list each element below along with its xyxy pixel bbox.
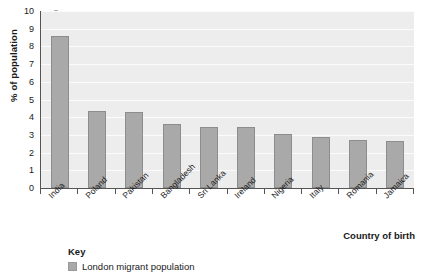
bar-slot — [339, 11, 376, 188]
legend-item: London migrant population — [68, 261, 195, 272]
chart-legend: Key London migrant population — [68, 246, 195, 272]
y-axis-tick-label: 8 — [18, 42, 34, 51]
bars-group — [41, 11, 414, 188]
y-axis-tick-label: 4 — [18, 113, 34, 122]
bar[interactable] — [51, 36, 69, 188]
y-axis-tick-label: 5 — [18, 95, 34, 104]
bar-slot — [116, 11, 153, 188]
bar-slot — [153, 11, 190, 188]
bar-slot — [302, 11, 339, 188]
legend-swatch-icon — [68, 262, 77, 271]
y-axis-tick-label: 1 — [18, 166, 34, 175]
bar-slot — [41, 11, 78, 188]
plot-area — [40, 11, 414, 189]
y-axis-tick-label: 7 — [18, 60, 34, 69]
y-axis-tick-label: 10 — [18, 7, 34, 16]
bar-slot — [78, 11, 115, 188]
bar-slot — [227, 11, 264, 188]
y-axis-tick-label: 3 — [18, 130, 34, 139]
bar[interactable] — [312, 137, 330, 188]
bar-slot — [190, 11, 227, 188]
bar-slot — [377, 11, 414, 188]
x-axis-tick-mark — [413, 189, 414, 194]
legend-title: Key — [68, 246, 195, 257]
y-axis-tick-label: 0 — [18, 184, 34, 193]
y-axis-tick-labels: 109876543210 — [18, 11, 34, 188]
bar-chart-figure: % of population 109876543210 IndiaPoland… — [0, 0, 423, 280]
y-axis-tick-label: 6 — [18, 77, 34, 86]
y-axis-title: % of population — [8, 6, 19, 126]
legend-item-label: London migrant population — [82, 261, 195, 272]
x-axis-title: Country of birth — [343, 230, 415, 241]
y-axis-tick-label: 2 — [18, 148, 34, 157]
bar-slot — [265, 11, 302, 188]
y-axis-tick-label: 9 — [18, 24, 34, 33]
